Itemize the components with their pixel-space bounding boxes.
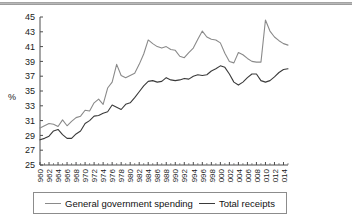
x-tick-label: 1984 — [144, 168, 153, 183]
y-tick-label: 27 — [25, 145, 35, 155]
x-tick-label: 1970 — [81, 168, 90, 183]
y-tick-label-group: 4543413937353331292725 — [25, 12, 35, 170]
x-tick-label: 2002 — [226, 168, 235, 183]
y-tick-label: 25 — [25, 160, 35, 170]
legend-label-receipts: Total receipts — [219, 198, 275, 209]
chart-legend: General government spending Total receip… — [33, 192, 287, 214]
y-tick-label: 45 — [25, 12, 35, 22]
y-tick-label: 31 — [25, 116, 35, 126]
x-tick-label: 1968 — [72, 168, 81, 183]
x-tick-label: 1996 — [199, 168, 208, 183]
plot-area: 4543413937353331292725 19601962196419661… — [0, 8, 352, 168]
y-tick-label: 29 — [25, 131, 35, 141]
line-chart-svg: 4543413937353331292725 19601962196419661… — [0, 8, 352, 183]
chart-figure: % 4543413937353331292725 196019621964196… — [0, 8, 352, 222]
x-tick-label: 1972 — [90, 168, 99, 183]
x-tick-label: 1990 — [171, 168, 180, 183]
legend-item-spending: General government spending — [45, 198, 193, 209]
y-tick-label: 41 — [25, 42, 35, 52]
legend-label-spending: General government spending — [65, 198, 193, 209]
x-tick-label: 1966 — [63, 168, 72, 183]
x-tick-label-group: 1960196219641966196819701972197419761978… — [36, 168, 288, 183]
legend-item-receipts: Total receipts — [199, 198, 275, 209]
x-tick-label: 1978 — [117, 168, 126, 183]
x-tick-label: 2010 — [262, 168, 271, 183]
x-tick-label: 1986 — [153, 168, 162, 183]
x-tick-label: 1980 — [126, 168, 135, 183]
series-path-group — [40, 20, 288, 140]
x-tick-label: 2006 — [244, 168, 253, 183]
y-tick-label: 37 — [25, 71, 35, 81]
top-divider-bar — [0, 2, 352, 5]
x-tick-label: 1974 — [99, 168, 108, 183]
x-tick-label: 2008 — [253, 168, 262, 183]
x-tick-label: 1982 — [135, 168, 144, 183]
legend-swatch-receipts — [199, 203, 215, 204]
x-tick-label: 1998 — [208, 168, 217, 183]
x-tick-label: 2000 — [217, 168, 226, 183]
x-tick-label: 1964 — [54, 168, 63, 183]
series-line-receipts — [40, 66, 288, 140]
x-tick-label: 2012 — [271, 168, 280, 183]
y-tick-label: 43 — [25, 27, 35, 37]
series-line-spending — [40, 20, 288, 128]
y-tick-label: 35 — [25, 86, 35, 96]
x-tick-label: 1976 — [108, 168, 117, 183]
x-tick-label: 1992 — [180, 168, 189, 183]
y-tick-label: 39 — [25, 57, 35, 67]
x-tick-label: 1962 — [45, 168, 54, 183]
x-tick-label: 1960 — [36, 168, 45, 183]
legend-swatch-spending — [45, 203, 61, 204]
y-tick-label: 33 — [25, 101, 35, 111]
x-tick-label: 1988 — [162, 168, 171, 183]
x-tick-label: 2004 — [235, 168, 244, 183]
x-tick-label: 2014 — [280, 168, 289, 183]
x-tick-label: 1994 — [190, 168, 199, 183]
